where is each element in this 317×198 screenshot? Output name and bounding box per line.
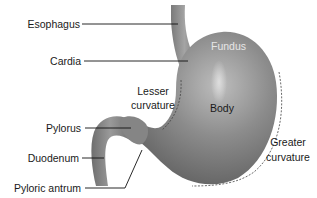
label-fundus: Fundus [211,40,246,52]
label-pyloric-antrum: Pyloric antrum [0,182,81,194]
pylorus-shape [120,116,148,144]
label-greater-curvature-line1: Greater [260,136,316,148]
body-highlight [211,60,227,104]
label-lesser-curvature-line1: Lesser [128,85,178,97]
label-duodenum: Duodenum [10,152,79,164]
label-pylorus: Pylorus [20,122,81,134]
label-cardia: Cardia [20,55,81,67]
label-esophagus: Esophagus [20,18,80,30]
label-lesser-curvature-line2: curvature [128,99,178,111]
label-body: Body [210,102,234,114]
label-greater-curvature-line2: curvature [260,151,316,163]
